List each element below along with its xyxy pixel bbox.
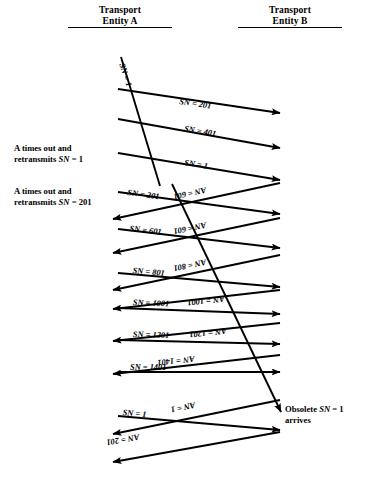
message-label: SN = 1 — [122, 408, 147, 419]
note-2: A times out andretransmits SN = 201 — [14, 186, 92, 207]
message-arrow-right — [118, 308, 280, 314]
message-label: SN = 1001 — [133, 298, 170, 308]
obsolete-note-line2: arrives — [285, 415, 311, 425]
note-1-line2: retransmits SN = 1 — [14, 154, 83, 164]
obsolete-note: Obsolete SN = 1arrives — [285, 404, 344, 425]
obsolete-note-line1: Obsolete SN = 1 — [285, 404, 344, 414]
note-1-line1: A times out and — [14, 143, 72, 153]
message-label: SN = 1201 — [133, 330, 170, 340]
message-arrow-right — [118, 340, 280, 344]
note-2-line1: A times out and — [14, 186, 72, 196]
note-1: A times out andretransmits SN = 1 — [14, 143, 83, 164]
sequence-diagram: Transport Entity A Transport Entity B A … — [0, 0, 366, 478]
note-2-line2: retransmits SN = 201 — [14, 197, 92, 207]
